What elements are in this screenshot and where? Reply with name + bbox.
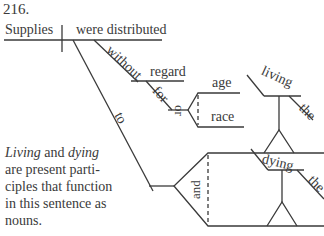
- subject-word: Supplies: [5, 23, 53, 37]
- note-connector: and: [41, 145, 68, 160]
- and-word: and: [189, 180, 203, 199]
- race-word: race: [211, 110, 234, 124]
- regard-word: regard: [150, 65, 186, 79]
- note-rest: are present parti-ciples that function i…: [5, 162, 112, 228]
- verb-word: were distributed: [76, 23, 167, 37]
- living-pedestal: [264, 130, 294, 153]
- age-word: age: [212, 76, 231, 90]
- or-word: or: [172, 105, 186, 116]
- explanatory-note: Living and dying are present parti-ciple…: [5, 144, 117, 229]
- note-word-living: Living: [5, 145, 41, 160]
- dying-pedestal: [267, 202, 297, 226]
- note-word-dying: dying: [68, 145, 99, 160]
